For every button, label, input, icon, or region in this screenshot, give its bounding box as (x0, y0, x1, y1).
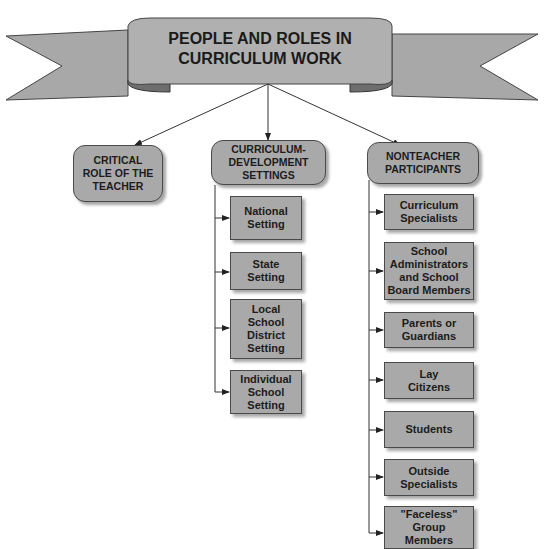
setting-state: State Setting (230, 252, 302, 290)
participant-students: Students (384, 411, 474, 448)
category-development-settings: CURRICULUM- DEVELOPMENT SETTINGS (211, 140, 326, 185)
participant-administrators: School Administrators and School Board M… (384, 242, 474, 300)
participant-faceless-members: "Faceless" Group Members (384, 506, 474, 549)
participant-parents: Parents or Guardians (384, 312, 474, 348)
category-nonteacher-participants: NONTEACHER PARTICIPANTS (367, 142, 479, 184)
participant-outside-specialists: Outside Specialists (384, 459, 474, 496)
category-teacher-role: CRITICAL ROLE OF THE TEACHER (73, 145, 163, 202)
setting-local-district: Local School District Setting (230, 299, 302, 359)
participant-lay-citizens: Lay Citizens (384, 362, 474, 399)
setting-individual-school: Individual School Setting (230, 370, 302, 414)
diagram-title: PEOPLE AND ROLES IN CURRICULUM WORK (128, 18, 392, 80)
participant-curriculum-specialists: Curriculum Specialists (384, 194, 474, 230)
setting-national: National Setting (230, 196, 302, 240)
